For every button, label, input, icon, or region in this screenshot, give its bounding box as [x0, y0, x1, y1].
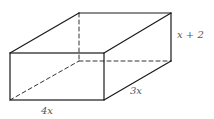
edge-top-right-depth	[104, 13, 171, 53]
label-height: x + 2	[177, 29, 204, 40]
label-length: 4x	[40, 105, 53, 116]
visible-edges	[10, 13, 171, 100]
hidden-edges	[10, 13, 171, 100]
rectangular-prism-diagram: 4x 3x x + 2	[0, 0, 214, 119]
front-face	[10, 53, 104, 100]
label-width: 3x	[130, 85, 142, 96]
edge-top-left-depth	[10, 13, 79, 53]
hidden-edge-bottom-left-depth	[10, 61, 79, 100]
